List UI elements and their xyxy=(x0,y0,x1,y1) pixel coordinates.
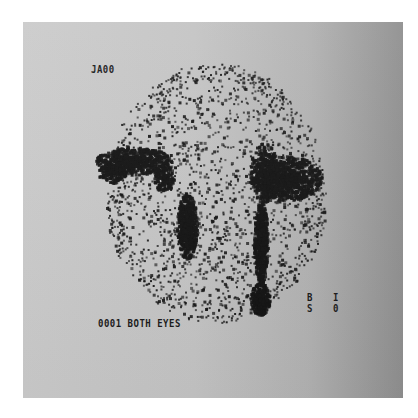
view-code-i: I xyxy=(333,292,339,304)
view-code-0: 0 xyxy=(333,303,339,315)
patient-id-label: JA00 xyxy=(91,64,115,76)
scan-image xyxy=(23,22,403,398)
view-code-s: S xyxy=(307,303,313,315)
scintigraphy-panel: JA00 0001 BOTH EYES B I S 0 xyxy=(23,22,403,398)
view-code-b: B xyxy=(307,292,313,304)
study-caption-label: 0001 BOTH EYES xyxy=(98,318,181,330)
